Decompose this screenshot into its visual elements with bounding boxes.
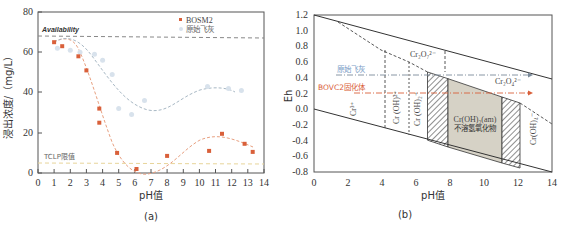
svg-text:0: 0 <box>312 177 317 188</box>
croh2-label: Cr (OH)²⁺ <box>392 91 401 124</box>
hatched-region-left <box>428 72 449 147</box>
cro4-label: Cr₂O₄²⁻ <box>495 77 521 86</box>
croh3-label: Cr(OH)₃(am) <box>454 115 497 124</box>
svg-text:-0.4: -0.4 <box>292 135 308 146</box>
cr2o7-label: Cr₂O₇²⁻ <box>410 50 436 59</box>
svg-text:14: 14 <box>547 177 557 188</box>
svg-text:40: 40 <box>23 86 33 97</box>
y-axis-label-a: 浸出浓度/（mg/L） <box>2 51 14 139</box>
legend-marker-raw-ash <box>179 27 183 31</box>
svg-text:5: 5 <box>116 177 121 188</box>
y-axis-a: 0 20 40 60 80 <box>23 6 42 178</box>
svg-text:12: 12 <box>227 177 237 188</box>
y-axis-label-b: Eh <box>283 90 294 103</box>
svg-text:4: 4 <box>380 177 385 188</box>
x-axis-label-b: pH值 <box>421 189 445 201</box>
figure: 0 20 40 60 80 0 1 2 3 4 5 6 <box>0 0 564 234</box>
svg-text:60: 60 <box>23 46 33 57</box>
x-axis-b: 0 2 4 6 8 10 12 14 <box>312 177 558 188</box>
croh4-label: Cr(OH)₄⁻ <box>529 113 538 145</box>
svg-text:-0.2: -0.2 <box>292 119 308 130</box>
svg-text:0.2: 0.2 <box>296 88 309 99</box>
svg-text:80: 80 <box>23 6 33 17</box>
svg-text:6: 6 <box>132 177 137 188</box>
bovc2-arrowhead <box>528 91 533 96</box>
legend-raw-ash: 原始飞灰 <box>186 24 215 34</box>
cr3-label: Cr³⁺ <box>349 102 358 116</box>
svg-text:0.0: 0.0 <box>296 103 309 114</box>
bovc2-label: BOVC2固化体 <box>318 82 366 92</box>
bosm2-points <box>52 40 255 171</box>
y-axis-b: 1.2 1.0 0.8 0.6 0.4 0.2 0.0 -0.2 -0.4 -0… <box>292 9 308 177</box>
svg-text:-0.6: -0.6 <box>292 150 308 161</box>
svg-text:4: 4 <box>100 177 105 188</box>
svg-text:0.6: 0.6 <box>296 56 309 67</box>
panel-label-a: (a) <box>144 211 158 222</box>
legend-bosm2: BOSM2 <box>186 16 213 25</box>
svg-text:8: 8 <box>448 177 453 188</box>
svg-text:1: 1 <box>52 177 57 188</box>
tclp-line <box>38 163 264 164</box>
svg-text:0.4: 0.4 <box>296 72 309 83</box>
svg-text:1.0: 1.0 <box>296 25 309 36</box>
chart-b: 原始飞灰 BOVC2固化体 Cr₂O₇²⁻ Cr₂O₄²⁻ Cr³⁺ Cr (O… <box>283 9 557 220</box>
svg-text:0: 0 <box>36 177 41 188</box>
legend-marker-bosm2 <box>179 18 182 21</box>
panel-label-b: (b) <box>398 209 412 220</box>
croh3-sublabel: 不溶氢氧化物 <box>454 123 497 133</box>
svg-text:3: 3 <box>84 177 89 188</box>
chart-a: 0 20 40 60 80 0 1 2 3 4 5 6 <box>2 6 269 222</box>
svg-text:2: 2 <box>68 177 73 188</box>
tclp-label: TCLP限值 <box>43 152 75 161</box>
svg-text:10: 10 <box>194 177 204 188</box>
svg-text:12: 12 <box>513 177 523 188</box>
svg-text:0.8: 0.8 <box>296 40 309 51</box>
svg-text:8: 8 <box>165 177 170 188</box>
availability-label: Availability <box>41 26 80 34</box>
bosm2-fit-curve <box>54 39 253 174</box>
x-axis-label-a: pH值 <box>139 189 163 201</box>
raw-ash-points <box>55 46 244 117</box>
svg-text:1.2: 1.2 <box>296 9 309 20</box>
svg-text:-0.8: -0.8 <box>292 166 308 177</box>
availability-line <box>38 36 264 38</box>
plot-frame-a <box>38 12 264 173</box>
svg-text:14: 14 <box>259 177 269 188</box>
svg-text:6: 6 <box>414 177 419 188</box>
svg-text:20: 20 <box>23 127 33 138</box>
x-axis-a: 0 1 2 3 4 5 6 7 8 9 10 11 12 13 14 <box>36 169 270 188</box>
svg-text:13: 13 <box>243 177 253 188</box>
svg-text:9: 9 <box>181 177 186 188</box>
croh2b-label: Cr (OH)₂⁺ <box>413 92 422 126</box>
svg-text:2: 2 <box>346 177 351 188</box>
svg-text:7: 7 <box>149 177 154 188</box>
svg-text:11: 11 <box>211 177 221 188</box>
svg-text:10: 10 <box>479 177 489 188</box>
hatched-region-right <box>502 97 520 168</box>
svg-text:0: 0 <box>28 167 33 178</box>
raw-ash-label: 原始飞灰 <box>337 64 366 74</box>
legend-a: BOSM2 原始飞灰 <box>179 16 215 34</box>
